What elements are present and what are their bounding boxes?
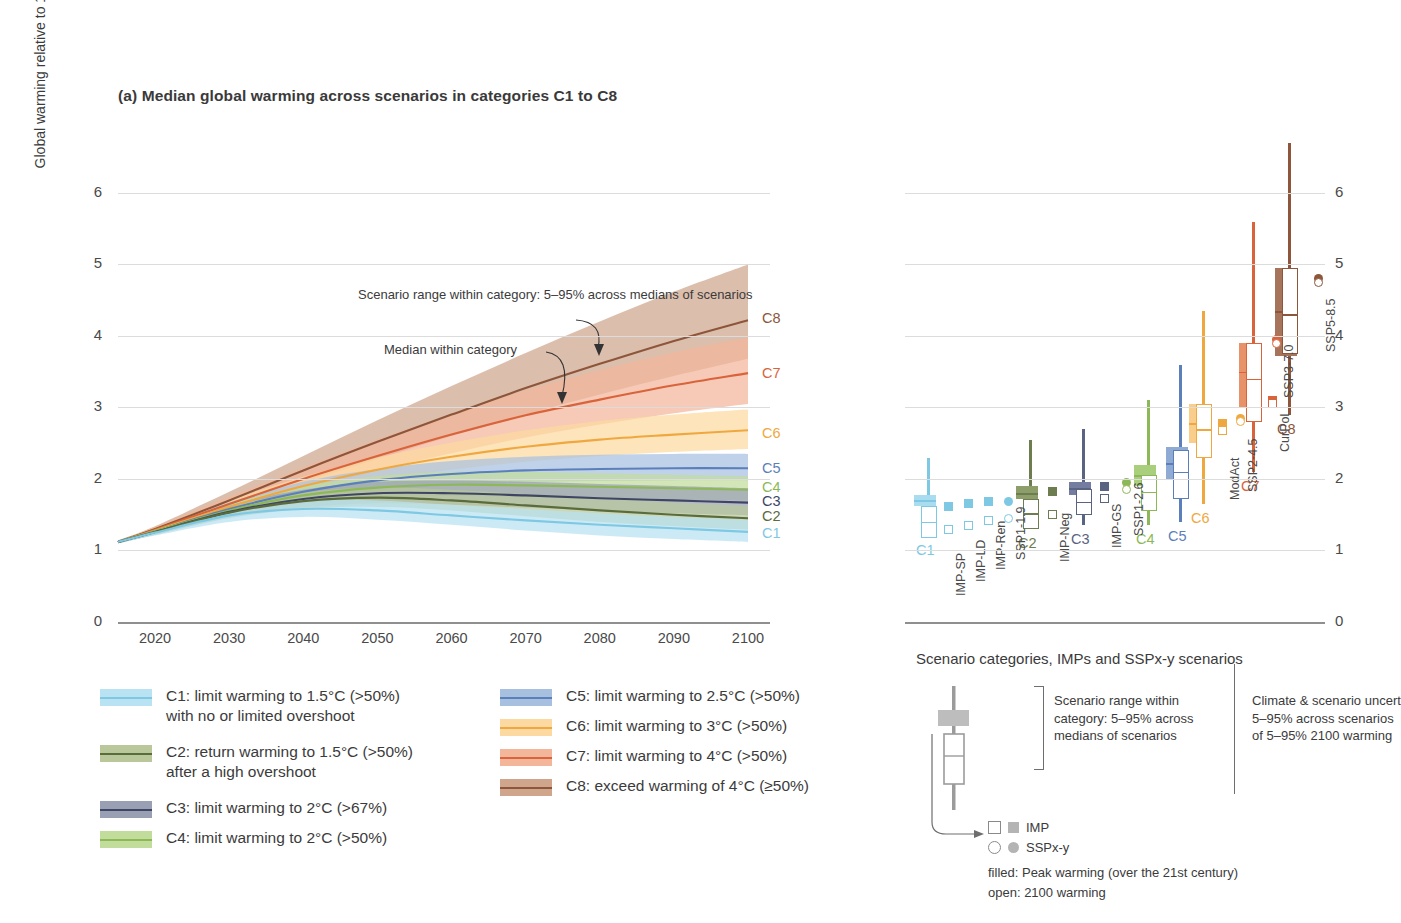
legend-swatch-C1 (100, 689, 152, 706)
marker-2100-ssp3-7.0 (1272, 339, 1281, 348)
open-median-C8 (1282, 314, 1298, 316)
legend-swatch-C6 (500, 719, 552, 736)
marker-peak-imp-ren (984, 497, 993, 506)
marker-2100-ssp5-8.5 (1314, 278, 1323, 287)
marker-peak-imp-sp (944, 502, 953, 511)
marker-2100-ssp2-4.5 (1236, 417, 1245, 426)
marker-peak-imp-neg (1048, 487, 1057, 496)
y-tick-b-1: 1 (1335, 540, 1361, 557)
key-vertical-separator (1234, 664, 1235, 794)
marker-label-ssp1-1.9: SSP1-1.9 (1014, 506, 1028, 560)
legend-label-C1: C1: limit warming to 1.5°C (>50%) with n… (166, 686, 400, 726)
marker-2100-ssp1-1.9 (1004, 514, 1013, 523)
marker-label-imp-sp: IMP-SP (954, 553, 968, 596)
legend-item-C2[interactable]: C2: return warming to 1.5°C (>50%) after… (100, 742, 413, 782)
key-open-text: open: 2100 warming (988, 884, 1106, 902)
open-median-C1 (921, 522, 937, 524)
marker-label-ssp1-2.6: SSP1-2.6 (1132, 482, 1146, 536)
gridline-b-4 (905, 336, 1325, 337)
legend-swatch-C7 (500, 749, 552, 766)
legend-item-C3[interactable]: C3: limit warming to 2°C (>67%) (100, 798, 387, 818)
key-sspxy-row: SSPx-y (988, 840, 1069, 855)
open-median-C7 (1246, 379, 1262, 381)
legend-item-C8[interactable]: C8: exceed warming of 4°C (≥50%) (500, 776, 809, 796)
key-bracket-range (1034, 686, 1044, 770)
key-imp-row: IMP (988, 820, 1049, 835)
panel-b-axis-caption: Scenario categories, IMPs and SSPx-y sce… (916, 650, 1243, 667)
open-median-C3 (1076, 502, 1092, 504)
y-tick-b-4: 4 (1335, 326, 1361, 343)
legend-swatch-C4 (100, 831, 152, 848)
marker-peak-imp-gs (1100, 482, 1109, 491)
marker-2100-imp-ren (984, 516, 993, 525)
y-tick-b-5: 5 (1335, 254, 1361, 271)
peak-median-C1 (914, 500, 936, 502)
open-median-C5 (1173, 472, 1189, 474)
open-box-C7 (1246, 343, 1262, 422)
marker-peak-ssp1-1.9 (1004, 497, 1013, 506)
marker-label-imp-ren: IMP-Ren (994, 521, 1008, 570)
category-label-C6: C6 (1191, 510, 1210, 526)
gridline-b-5 (905, 264, 1325, 265)
figure-root: (a) Median global warming across scenari… (0, 0, 1401, 923)
imp-open-square-icon (988, 821, 1001, 834)
key-range-text: Scenario range within category: 5–95% ac… (1054, 692, 1214, 745)
category-label-C3: C3 (1071, 531, 1090, 547)
gridline-b-2 (905, 479, 1325, 480)
legend-item-C7[interactable]: C7: limit warming to 4°C (>50%) (500, 746, 787, 766)
key-filled-text: filled: Peak warming (over the 21st cent… (988, 864, 1238, 882)
legend-item-C1[interactable]: C1: limit warming to 1.5°C (>50%) with n… (100, 686, 400, 726)
y-tick-b-0: 0 (1335, 612, 1361, 629)
marker-2100-ssp1-2.6 (1122, 485, 1131, 494)
legend-swatch-C3 (100, 801, 152, 818)
legend-swatch-C5 (500, 689, 552, 706)
category-label-C5: C5 (1168, 528, 1187, 544)
legend-swatch-C8 (500, 779, 552, 796)
legend-item-C6[interactable]: C6: limit warming to 3°C (>50%) (500, 716, 787, 736)
open-box-C6 (1196, 404, 1212, 458)
marker-label-imp-gs: IMP-GS (1110, 504, 1124, 548)
gridline-b-1 (905, 550, 1325, 551)
gridline-b-6 (905, 193, 1325, 194)
marker-label-imp-ld: IMP-LD (974, 540, 988, 582)
panel-b-plot: C1C2C3C4C5C6C7C8IMP-SPIMP-LDIMP-RenSSP1-… (0, 0, 1401, 660)
marker-2100-imp-sp (944, 525, 953, 534)
legend-label-C5: C5: limit warming to 2.5°C (>50%) (566, 686, 800, 706)
imp-filled-square-icon (1008, 822, 1019, 833)
marker-label-imp-neg: IMP-Neg (1058, 513, 1072, 562)
legend-label-C4: C4: limit warming to 2°C (>50%) (166, 828, 387, 848)
marker-2100-imp-gs (1100, 494, 1109, 503)
marker-label-ssp2-4.5: SSP2-4.5 (1246, 438, 1260, 492)
marker-2100-imp-ld (964, 521, 973, 530)
legend-item-C5[interactable]: C5: limit warming to 2.5°C (>50%) (500, 686, 800, 706)
gridline-b-0 (905, 622, 1325, 624)
marker-2100-imp-neg (1048, 510, 1057, 519)
gridline-b-3 (905, 407, 1325, 408)
key-imp-label: IMP (1026, 820, 1049, 835)
sspxy-filled-circle-icon (1008, 842, 1019, 853)
marker-2100-modact (1218, 426, 1227, 435)
open-median-C6 (1196, 429, 1212, 431)
legend-swatch-C2 (100, 745, 152, 762)
y-tick-b-3: 3 (1335, 397, 1361, 414)
marker-label-curpol: CurPol (1278, 414, 1292, 452)
key-uncertainty-text: Climate & scenario uncertainty: 5–95% ac… (1252, 692, 1401, 745)
sspxy-open-circle-icon (988, 841, 1001, 854)
y-tick-b-6: 6 (1335, 183, 1361, 200)
legend-label-C7: C7: limit warming to 4°C (>50%) (566, 746, 787, 766)
legend-label-C8: C8: exceed warming of 4°C (≥50%) (566, 776, 809, 796)
marker-label-ssp3-7.0: SSP3-7.0 (1282, 344, 1296, 398)
legend-label-C3: C3: limit warming to 2°C (>67%) (166, 798, 387, 818)
peak-median-C2 (1016, 493, 1038, 495)
legend-label-C2: C2: return warming to 1.5°C (>50%) after… (166, 742, 413, 782)
legend-label-C6: C6: limit warming to 3°C (>50%) (566, 716, 787, 736)
y-tick-b-2: 2 (1335, 469, 1361, 486)
legend-item-C4[interactable]: C4: limit warming to 2°C (>50%) (100, 828, 387, 848)
open-box-C5 (1173, 450, 1189, 499)
marker-peak-imp-ld (964, 499, 973, 508)
key-sspxy-label: SSPx-y (1026, 840, 1069, 855)
open-box-C8 (1282, 268, 1298, 354)
